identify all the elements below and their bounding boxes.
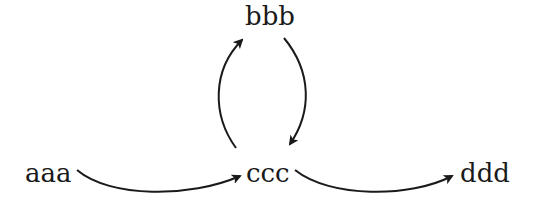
node-bbb: bbb (245, 3, 295, 29)
node-ccc: ccc (246, 160, 290, 186)
diagram-canvas: bbb aaa ccc ddd (0, 0, 559, 201)
node-aaa: aaa (25, 160, 72, 186)
edge-ccc-to-ddd (295, 170, 452, 192)
node-ddd: ddd (460, 160, 510, 186)
edge-aaa-to-ccc (77, 170, 240, 192)
edge-bbb-to-ccc (284, 38, 306, 144)
edge-ccc-to-bbb (219, 40, 242, 148)
